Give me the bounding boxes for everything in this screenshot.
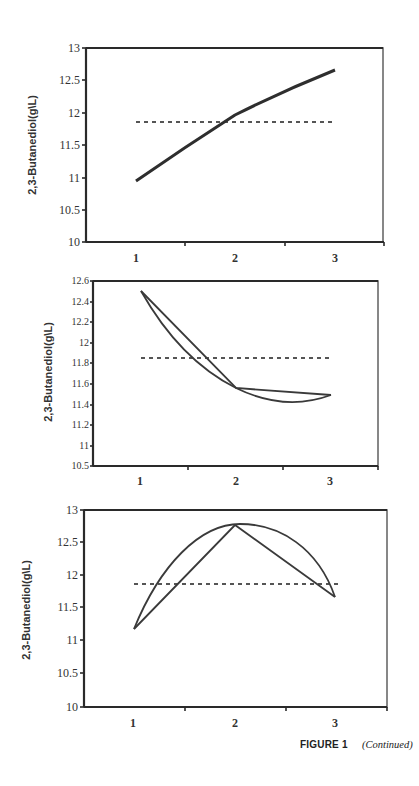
figure-canvas: 13 12.5 12 11.5 11 10.5 10 1 2 3 2,3-But… (0, 0, 419, 786)
y-tick-label: 12.5 (57, 535, 78, 549)
y-tick-label: 11.4 (72, 399, 89, 410)
figure-caption: FIGURE 1 (Continued) (300, 739, 413, 751)
y-tick-label: 10.5 (72, 460, 90, 471)
y-tick-label: 11.2 (72, 419, 89, 430)
y-axis-label: 2,3-Butanediol(g\L) (20, 560, 32, 660)
y-tick-label: 10.5 (59, 203, 80, 217)
caption-continued-note: (Continued) (362, 739, 413, 751)
x-tick-label: 1 (130, 716, 136, 730)
caption-figure-label: FIGURE 1 (300, 739, 348, 750)
y-tick-label: 11.8 (72, 357, 89, 368)
response-curve (136, 70, 335, 181)
chart-1: 13 12.5 12 11.5 11 10.5 10 1 2 3 2,3-But… (26, 41, 384, 265)
x-tick-label: 2 (232, 716, 238, 730)
y-tick-label: 12.6 (72, 275, 90, 286)
y-axis-label: 2,3-Butanediol(g\L) (42, 322, 54, 422)
x-ticks: 1 2 3 (133, 242, 384, 265)
y-tick-label: 11 (79, 440, 89, 451)
y-tick-label: 11 (68, 171, 80, 185)
x-ticks: 1 2 3 (130, 707, 387, 730)
x-tick-label: 2 (233, 474, 239, 488)
y-ticks: 13 12.5 12 11.5 11 10.5 10 (59, 41, 86, 249)
x-tick-label: 3 (327, 474, 333, 488)
chart-2: 12.6 12.4 12.2 12 11.8 11.6 11.4 11.2 11… (42, 275, 378, 488)
y-ticks: 13 12.5 12 11.5 11 10.5 10 (57, 503, 84, 714)
y-tick-label: 13 (66, 503, 78, 517)
y-axis-label: 2,3-Butanediol(g\L) (26, 95, 38, 195)
y-tick-label: 12 (68, 106, 80, 120)
x-ticks: 1 2 3 (137, 466, 378, 488)
x-tick-label: 1 (133, 251, 139, 265)
y-tick-label: 10.5 (57, 666, 78, 680)
fitted-curve (134, 524, 335, 629)
y-tick-label: 11.6 (72, 378, 89, 389)
plot-frame (86, 48, 383, 242)
y-tick-label: 11 (66, 633, 78, 647)
y-tick-label: 12.2 (72, 316, 90, 327)
fitted-curve (141, 291, 331, 402)
chart-3: 13 12.5 12 11.5 11 10.5 10 1 2 3 2,3-But… (20, 503, 387, 730)
y-tick-label: 12.5 (59, 73, 80, 87)
y-tick-label: 12 (79, 337, 89, 348)
plot-frame (93, 281, 378, 466)
x-tick-label: 3 (332, 251, 338, 265)
x-tick-label: 1 (137, 474, 143, 488)
y-tick-label: 10 (68, 235, 80, 249)
x-tick-label: 2 (232, 251, 238, 265)
y-tick-label: 11.5 (57, 600, 78, 614)
y-tick-label: 11.5 (59, 138, 80, 152)
y-tick-label: 10 (66, 700, 78, 714)
y-tick-label: 13 (68, 41, 80, 55)
response-polyline (134, 525, 335, 629)
response-polyline (141, 291, 331, 395)
plot-frame (84, 510, 387, 707)
y-tick-label: 12 (66, 568, 78, 582)
y-ticks: 12.6 12.4 12.2 12 11.8 11.6 11.4 11.2 11… (72, 275, 94, 471)
x-tick-label: 3 (332, 716, 338, 730)
y-tick-label: 12.4 (72, 296, 90, 307)
